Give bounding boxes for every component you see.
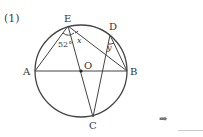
label-A: A xyxy=(22,66,31,77)
answer-blank[interactable] xyxy=(178,130,203,131)
angle-x-label: x xyxy=(77,36,82,45)
label-E: E xyxy=(64,13,71,24)
angle-y-label: y xyxy=(106,43,112,52)
segment-EB xyxy=(68,26,127,71)
circle-diagram: E D A B O C 52° x y xyxy=(0,0,203,137)
arrow-icon: ➡ xyxy=(159,113,167,124)
center-dot xyxy=(79,69,82,72)
label-B: B xyxy=(130,66,137,77)
label-C: C xyxy=(89,120,97,131)
label-D: D xyxy=(109,21,117,32)
label-O: O xyxy=(84,60,92,71)
segment-DB xyxy=(110,35,127,71)
angle-arc-52 xyxy=(63,33,74,35)
angle-52-label: 52° xyxy=(58,40,72,49)
